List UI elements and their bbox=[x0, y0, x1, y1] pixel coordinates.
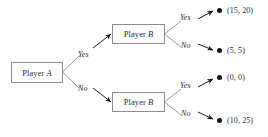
edge-bdown-to-t4-arrow bbox=[198, 112, 213, 119]
payoff-label-2: (5, 5) bbox=[227, 46, 245, 55]
edge-bup-yes-stem bbox=[165, 21, 182, 34]
edge-bdown-no-stem bbox=[165, 102, 182, 115]
game-tree-diagram: PlayerA PlayerB PlayerB Yes No Yes No Ye… bbox=[0, 0, 268, 137]
node-player-b-lower[interactable]: PlayerB bbox=[112, 92, 165, 112]
edge-root-no-stem bbox=[63, 72, 80, 88]
node-player-b-lower-prefix: Player bbox=[124, 97, 146, 107]
payoff-label-1: (15, 20) bbox=[227, 6, 253, 15]
edge-label-bup-no: No bbox=[181, 41, 191, 50]
edge-label-root-yes: Yes bbox=[78, 50, 89, 59]
edge-bup-no-stem bbox=[165, 34, 182, 47]
edge-label-bdown-no: No bbox=[181, 109, 191, 118]
edge-bup-to-t2-arrow bbox=[198, 44, 213, 50]
node-player-b-lower-id: B bbox=[146, 97, 153, 107]
terminal-dot-3 bbox=[217, 75, 222, 80]
edge-label-root-no: No bbox=[78, 84, 88, 93]
edge-bdown-yes-stem bbox=[165, 89, 182, 102]
edge-label-bdown-yes: Yes bbox=[180, 81, 191, 90]
terminal-dot-4 bbox=[217, 118, 222, 123]
payoff-label-3: (0, 0) bbox=[227, 73, 245, 82]
terminal-dot-2 bbox=[217, 48, 222, 53]
edge-label-bup-yes: Yes bbox=[180, 13, 191, 22]
edge-root-to-playerb-lower-arrow bbox=[93, 88, 111, 102]
edge-root-to-playerb-upper-arrow bbox=[93, 34, 111, 48]
edge-bup-to-t1-arrow bbox=[198, 11, 213, 19]
node-player-b-upper-id: B bbox=[146, 29, 153, 39]
node-player-b-upper[interactable]: PlayerB bbox=[112, 24, 165, 44]
edge-bdown-to-t3-arrow bbox=[198, 79, 213, 87]
node-player-a-id: A bbox=[45, 68, 52, 78]
node-player-b-upper-prefix: Player bbox=[124, 29, 146, 39]
terminal-dot-1 bbox=[217, 8, 222, 13]
node-player-a-prefix: Player bbox=[22, 68, 44, 78]
node-player-a[interactable]: PlayerA bbox=[11, 62, 63, 83]
edge-root-yes-stem bbox=[63, 56, 80, 72]
payoff-label-4: (10, 25) bbox=[227, 116, 253, 125]
